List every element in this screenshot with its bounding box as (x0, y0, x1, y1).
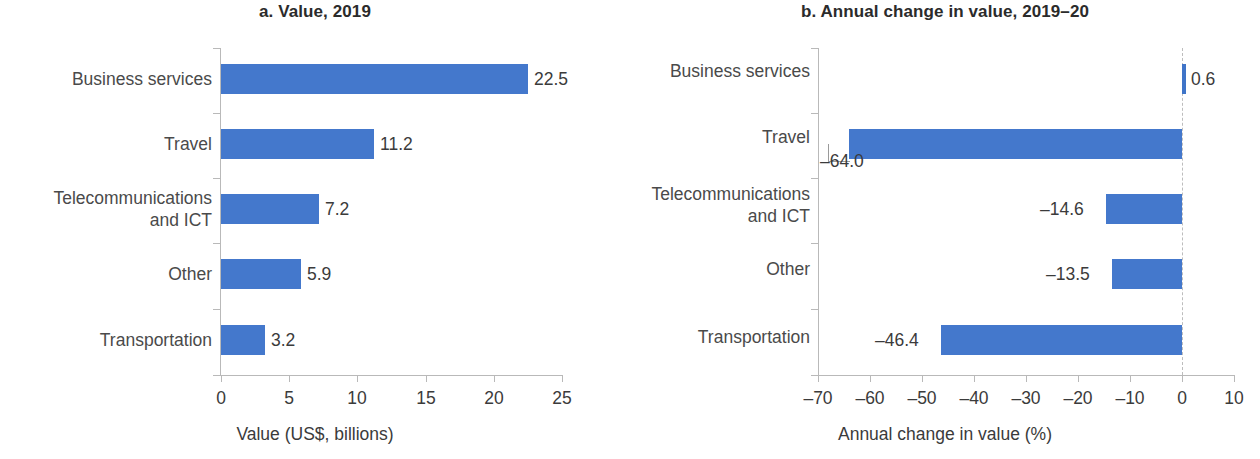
panel-a-x-tick-label-1: 5 (284, 388, 294, 409)
panel-a-bar-3[interactable] (221, 259, 301, 289)
panel-b-y-axis-line (818, 48, 819, 375)
panel-b-y-tick-3 (811, 243, 818, 244)
panel-a-value-label-2: 7.2 (325, 194, 349, 224)
panel-a-y-tick-2 (213, 178, 220, 179)
panel-a-y-tick-5 (213, 375, 220, 376)
panel-a-category-label-3: Other (168, 263, 212, 285)
panel-a-y-tick-0 (213, 48, 220, 49)
panel-b-category-label-0: Business services (670, 60, 810, 82)
panel-a-bar-1[interactable] (221, 129, 374, 159)
panel-b-y-tick-0 (811, 48, 818, 49)
panel-a-value-label-3: 5.9 (307, 259, 331, 289)
panel-b-category-label-4: Transportation (698, 326, 810, 348)
panel-a-plot-area: Business services Travel Telecommunicati… (0, 0, 630, 459)
panel-a-category-label-1: Travel (164, 133, 212, 155)
panel-b-annual-change-2019-20: b. Annual change in value, 2019–20 Busin… (630, 0, 1260, 459)
panel-a-value-label-4: 3.2 (271, 325, 295, 355)
panel-a-x-tick-0 (221, 375, 222, 382)
panel-b-bar-1[interactable] (849, 129, 1182, 159)
panel-a-x-tick-3 (426, 375, 427, 382)
panel-a-x-tick-1 (289, 375, 290, 382)
panel-a-x-tick-label-4: 20 (484, 388, 503, 409)
panel-a-bar-0[interactable] (221, 64, 528, 94)
panel-b-category-label-3: Other (766, 258, 810, 280)
panel-b-x-tick-7 (1182, 375, 1183, 382)
panel-b-value-label-3: –13.5 (1046, 259, 1090, 289)
panel-b-x-tick-6 (1130, 375, 1131, 382)
panel-b-x-tick-label-4: –30 (1011, 388, 1040, 409)
panel-a-x-tick-2 (357, 375, 358, 382)
panel-a-x-tick-label-3: 15 (416, 388, 435, 409)
panel-b-x-tick-5 (1078, 375, 1079, 382)
panel-b-x-tick-3 (974, 375, 975, 382)
panel-a-value-label-0: 22.5 (534, 64, 568, 94)
panel-b-bar-3[interactable] (1112, 259, 1182, 289)
panel-b-x-tick-label-3: –40 (959, 388, 988, 409)
panel-b-value-label-4: –46.4 (875, 325, 919, 355)
panel-b-x-tick-label-1: –60 (855, 388, 884, 409)
panel-a-bar-2[interactable] (221, 194, 319, 224)
panel-a-x-tick-4 (494, 375, 495, 382)
panel-a-y-tick-1 (213, 113, 220, 114)
two-panel-bar-chart-figure: a. Value, 2019 Business services Travel … (0, 0, 1260, 459)
panel-b-y-tick-2 (811, 178, 818, 179)
panel-a-category-label-2: Telecommunications and ICT (53, 187, 212, 231)
panel-a-bar-4[interactable] (221, 325, 265, 355)
panel-b-x-tick-8 (1234, 375, 1235, 382)
panel-b-x-tick-label-5: –20 (1063, 388, 1092, 409)
panel-a-x-tick-label-2: 10 (347, 388, 366, 409)
panel-a-x-tick-5 (562, 375, 563, 382)
panel-a-category-label-0: Business services (72, 68, 212, 90)
panel-b-bar-4[interactable] (941, 325, 1182, 355)
panel-a-category-label-4: Transportation (100, 329, 212, 351)
panel-b-x-tick-0 (818, 375, 819, 382)
panel-b-y-tick-4 (811, 309, 818, 310)
panel-a-x-tick-label-0: 0 (216, 388, 226, 409)
panel-a-x-axis-title: Value (US$, billions) (0, 424, 630, 445)
panel-b-zero-reference-line (1182, 48, 1183, 375)
panel-a-y-tick-3 (213, 243, 220, 244)
panel-a-y-tick-4 (213, 309, 220, 310)
panel-b-y-tick-1 (811, 113, 818, 114)
panel-a-value-label-1: 11.2 (380, 129, 413, 159)
panel-b-x-tick-4 (1026, 375, 1027, 382)
panel-a-x-tick-label-5: 25 (552, 388, 571, 409)
panel-b-x-tick-1 (870, 375, 871, 382)
panel-b-category-label-2: Telecommunications and ICT (651, 183, 810, 227)
panel-a-x-axis-line (220, 375, 563, 376)
panel-b-x-tick-label-6: –10 (1115, 388, 1144, 409)
panel-b-plot-area: Business services Travel Telecommunicati… (630, 0, 1260, 459)
panel-b-x-tick-label-2: –50 (907, 388, 936, 409)
panel-a-value-2019: a. Value, 2019 Business services Travel … (0, 0, 630, 459)
panel-b-x-tick-label-7: 0 (1177, 388, 1187, 409)
panel-b-value-label-0: 0.6 (1191, 64, 1215, 94)
panel-b-bar-0[interactable] (1182, 64, 1186, 94)
panel-b-category-label-1: Travel (762, 126, 810, 148)
panel-b-x-tick-2 (922, 375, 923, 382)
panel-b-x-axis-title: Annual change in value (%) (630, 424, 1260, 445)
panel-b-x-tick-label-8: 10 (1224, 388, 1243, 409)
panel-b-value-label-2: –14.6 (1040, 194, 1084, 224)
panel-b-y-tick-5 (811, 375, 818, 376)
panel-b-x-tick-label-0: –70 (803, 388, 832, 409)
panel-b-value-label-1: –64.0 (820, 146, 864, 176)
panel-b-bar-2[interactable] (1106, 194, 1182, 224)
